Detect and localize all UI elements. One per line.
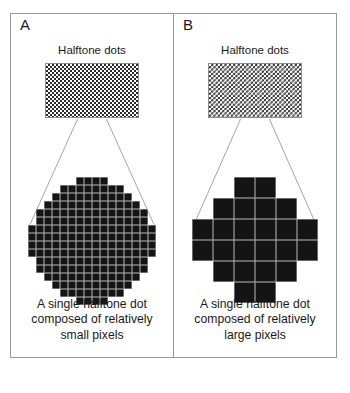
pixel-cell [92, 185, 100, 193]
pixel-cell [60, 273, 68, 281]
pixel-cell [44, 257, 52, 265]
pixel-cell [276, 177, 297, 198]
pixel-cell [100, 265, 108, 273]
panel-a-pixel-grid [28, 177, 156, 305]
pixel-cell [60, 233, 68, 241]
pixel-cell [60, 217, 68, 225]
pixel-cell [92, 201, 100, 209]
pixel-cell [84, 257, 92, 265]
pixel-cell [84, 225, 92, 233]
pixel-cell [192, 240, 213, 261]
pixel-cell [36, 217, 44, 225]
pixel-cell [28, 249, 36, 257]
pixel-cell [52, 281, 60, 289]
pixel-cell [124, 281, 132, 289]
pixel-cell [255, 177, 276, 198]
pixel-cell [108, 265, 116, 273]
pixel-cell [148, 233, 156, 241]
panel-b: B Halftone dots A single halftone dot co… [173, 14, 336, 357]
pixel-cell [92, 233, 100, 241]
pixel-cell [255, 261, 276, 282]
pixel-cell [140, 209, 148, 217]
pixel-cell [68, 185, 76, 193]
pixel-cell [28, 273, 36, 281]
pixel-cell [100, 185, 108, 193]
pixel-cell [132, 241, 140, 249]
pixel-cell [68, 281, 76, 289]
pixel-cell [234, 198, 255, 219]
pixel-cell [68, 193, 76, 201]
pixel-cell [84, 185, 92, 193]
pixel-cell [140, 217, 148, 225]
pixel-cell [52, 201, 60, 209]
pixel-cell [148, 193, 156, 201]
pixel-cell [234, 240, 255, 261]
pixel-cell [148, 281, 156, 289]
panel-a-caption-line-3: small pixels [17, 328, 167, 344]
pixel-cell [100, 241, 108, 249]
panel-b-caption-line-3: large pixels [180, 328, 330, 344]
panel-b-caption-line-1: A single halftone dot [180, 297, 330, 313]
pixel-cell [132, 265, 140, 273]
pixel-cell [297, 240, 318, 261]
pixel-cell [68, 241, 76, 249]
pixel-cell [124, 177, 132, 185]
pixel-cell [108, 185, 116, 193]
pixel-cell [255, 240, 276, 261]
pixel-cell [68, 225, 76, 233]
pixel-cell [108, 209, 116, 217]
pixel-cell [140, 193, 148, 201]
pixel-cell [36, 177, 44, 185]
pixel-cell [116, 209, 124, 217]
pixel-cell [148, 209, 156, 217]
pixel-cell [234, 177, 255, 198]
pixel-cell [60, 201, 68, 209]
pixel-cell [100, 193, 108, 201]
pixel-cell [124, 241, 132, 249]
pixel-cell [192, 219, 213, 240]
pixel-cell [76, 249, 84, 257]
panel-b-letter: B [183, 17, 194, 32]
pixel-cell [116, 241, 124, 249]
pixel-cell [116, 265, 124, 273]
pixel-cell [28, 257, 36, 265]
pixel-cell [92, 265, 100, 273]
pixel-cell [52, 249, 60, 257]
pixel-cell [140, 257, 148, 265]
pixel-cell [28, 209, 36, 217]
pixel-cell [44, 241, 52, 249]
pixel-cell [124, 249, 132, 257]
pixel-cell [60, 177, 68, 185]
pixel-cell [255, 198, 276, 219]
pixel-cell [36, 209, 44, 217]
panel-b-caption: A single halftone dot composed of relati… [180, 297, 330, 344]
pixel-cell [116, 233, 124, 241]
pixel-cell [36, 249, 44, 257]
pixel-cell [28, 201, 36, 209]
pixel-cell [116, 217, 124, 225]
pixel-cell [140, 241, 148, 249]
pixel-cell [84, 249, 92, 257]
pixel-cell [44, 209, 52, 217]
pixel-cell [60, 209, 68, 217]
pixel-cell [124, 193, 132, 201]
pixel-cell [116, 193, 124, 201]
pixel-cell [140, 177, 148, 185]
pixel-cell [100, 201, 108, 209]
pixel-cell [60, 257, 68, 265]
pixel-cell [148, 185, 156, 193]
pixel-cell [28, 281, 36, 289]
pixel-cell [148, 225, 156, 233]
pixel-cell [36, 257, 44, 265]
pixel-cell [52, 185, 60, 193]
pixel-cell [36, 233, 44, 241]
pixel-cell [92, 257, 100, 265]
pixel-cell [148, 265, 156, 273]
panel-a-halftone-swatch [45, 63, 139, 118]
pixel-cell [192, 198, 213, 219]
pixel-cell [116, 281, 124, 289]
pixel-cell [44, 281, 52, 289]
pixel-cell [92, 225, 100, 233]
pixel-cell [148, 177, 156, 185]
panel-a-caption-line-1: A single halftone dot [17, 297, 167, 313]
